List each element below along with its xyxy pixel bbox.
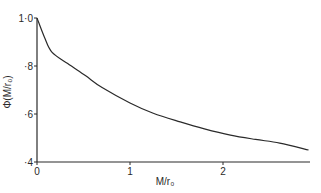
x-tick-label: 0 <box>34 166 40 177</box>
y-tick-label: ·6 <box>24 109 33 120</box>
data-line <box>37 18 309 150</box>
x-ticks: 012 <box>34 162 226 177</box>
x-axis-label: M/r₀ <box>156 176 175 187</box>
axes <box>37 18 310 162</box>
x-tick-label: 1 <box>127 166 133 177</box>
y-tick-label: ·8 <box>24 61 33 72</box>
chart: ·4·6·81·0 012 M/r₀ Φ(M/r₀) <box>0 0 321 193</box>
y-tick-label: 1·0 <box>19 13 34 24</box>
y-axis-label: Φ(M/r₀) <box>2 75 13 108</box>
y-tick-label: ·4 <box>24 157 33 168</box>
x-tick-label: 2 <box>220 166 226 177</box>
y-ticks: ·4·6·81·0 <box>19 13 37 168</box>
